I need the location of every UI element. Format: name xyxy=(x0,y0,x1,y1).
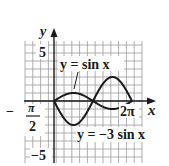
curve-sin-label: y = sin x xyxy=(60,57,110,72)
x-axis-label: x xyxy=(147,102,156,118)
y-axis-arrow-icon xyxy=(51,28,58,37)
y-axis-label: y xyxy=(38,24,47,39)
y-tick-5: 5 xyxy=(39,45,46,60)
x-tick-2pi: 2π xyxy=(120,104,135,119)
x-tick-2: 2 xyxy=(29,119,36,134)
label-pointer xyxy=(74,72,78,89)
y-tick-neg5: −5 xyxy=(31,148,46,163)
x-tick-minus: − xyxy=(6,104,14,119)
curve-neg3sin-label: y = −3 sin x xyxy=(77,127,145,142)
x-tick-pi: π xyxy=(28,101,35,115)
chart: y 5 y = sin x x 2π − π 2 y = −3 sin x −5 xyxy=(0,0,169,166)
